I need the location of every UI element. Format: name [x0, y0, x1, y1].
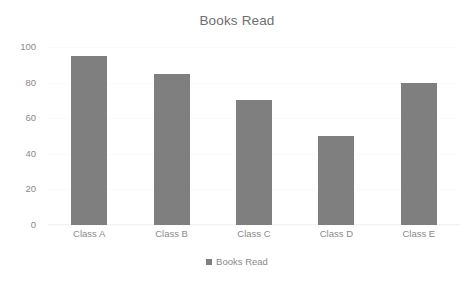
x-axis-tick-label: Class B: [155, 229, 188, 239]
bar-slot: [213, 47, 295, 225]
bar[interactable]: [236, 100, 272, 225]
y-axis-tick-label: 100: [20, 42, 36, 52]
x-axis-tick-label: Class C: [237, 229, 270, 239]
bar[interactable]: [318, 136, 354, 225]
chart-title: Books Read: [0, 13, 474, 28]
y-axis-tick-label: 60: [25, 113, 36, 123]
y-axis-tick-label: 40: [25, 149, 36, 159]
bar[interactable]: [401, 83, 437, 225]
x-axis: Class AClass BClass CClass DClass E: [48, 229, 460, 245]
y-axis-tick-label: 80: [25, 78, 36, 88]
bar[interactable]: [154, 74, 190, 225]
y-axis-tick-label: 0: [31, 220, 36, 230]
x-axis-tick-label: Class D: [320, 229, 353, 239]
gridline: [48, 225, 460, 226]
bar-slot: [48, 47, 130, 225]
plot-area: [48, 47, 460, 225]
bar-chart: Books Read 020406080100 Class AClass BCl…: [0, 0, 474, 284]
chart-legend: Books Read: [0, 257, 474, 267]
x-axis-tick-label: Class A: [73, 229, 105, 239]
bar-slot: [378, 47, 460, 225]
bar-slot: [295, 47, 377, 225]
legend-label: Books Read: [216, 257, 268, 267]
bar[interactable]: [71, 56, 107, 225]
square-marker-icon: [206, 259, 212, 265]
y-axis: 020406080100: [0, 47, 42, 225]
y-axis-tick-label: 20: [25, 185, 36, 195]
bar-slot: [130, 47, 212, 225]
x-axis-tick-label: Class E: [402, 229, 435, 239]
